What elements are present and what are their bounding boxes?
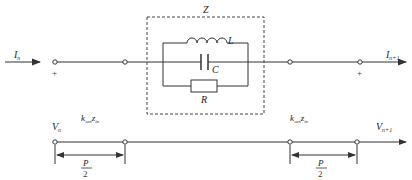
inductor-label: L xyxy=(227,35,234,46)
left-dimension-denominator: 2 xyxy=(83,169,88,179)
polarity-plus-left: + xyxy=(52,68,57,78)
terminal-node xyxy=(123,60,127,64)
terminal-node xyxy=(358,60,362,64)
line-node xyxy=(288,140,292,144)
left-line-parameter: ksenzin xyxy=(81,113,100,124)
line-node xyxy=(123,140,127,144)
output-current-label: In+1 xyxy=(385,49,399,61)
right-dimension-numerator: P xyxy=(317,158,324,168)
polarity-plus-right: + xyxy=(357,68,362,78)
input-current-label: In xyxy=(13,49,20,61)
resistor-label: R xyxy=(200,94,207,105)
input-voltage-label: Vn xyxy=(52,121,61,133)
left-dimension-numerator: P xyxy=(82,158,89,168)
rlc-network xyxy=(163,38,248,92)
right-dimension-denominator: 2 xyxy=(318,169,323,179)
right-dimension xyxy=(290,145,357,164)
terminal-node xyxy=(53,60,57,64)
impedance-label: Z xyxy=(203,4,209,15)
left-dimension xyxy=(55,145,125,164)
capacitor-label: C xyxy=(212,64,219,75)
circuit-diagram: In + + In+1 Z L C R ksenzin ksenzi xyxy=(0,0,412,180)
right-line-parameter: ksenzin xyxy=(290,113,309,124)
output-voltage-label: Vn+1 xyxy=(376,121,392,133)
line-node xyxy=(53,140,57,144)
terminal-node xyxy=(288,60,292,64)
line-node xyxy=(355,140,359,144)
